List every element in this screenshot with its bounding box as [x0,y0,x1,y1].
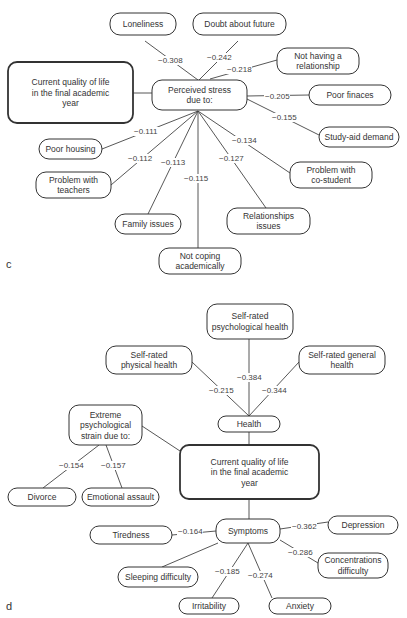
node-irr: Irritability [179,598,239,614]
panel-c: −0.308−0.242−0.218−0.205−0.155−0.111−0.1… [6,13,399,274]
edge-weight: −0.308 [158,56,183,65]
node-label: year [241,478,258,488]
path-diagram: −0.308−0.242−0.218−0.205−0.155−0.111−0.1… [0,0,407,618]
node-stress: Perceived stressdue to: [152,80,247,110]
node-label: Not coping [180,251,221,261]
node-label: Health [237,419,262,429]
edge-weight: −0.344 [262,386,287,395]
edge-weight: −0.127 [219,154,244,163]
node-label: Problem with [49,175,98,185]
node-label: Anxiety [286,601,315,611]
node-label: Self-rated [131,350,168,360]
node-costu: Problem withco-student [290,162,372,188]
node-label: academically [175,261,225,271]
edge-weight: −0.242 [207,53,232,62]
node-label: Poor finaces [326,90,373,100]
node-label: Not having a [294,51,342,61]
node-label: difficulty [338,566,369,576]
node-gen: Self-rated generalhealth [299,346,385,374]
node-fam: Family issues [115,214,181,234]
node-label: in the final academic [32,88,110,98]
panel-letter: d [6,600,12,612]
node-qol: Current quality of lifein the final acad… [8,62,133,123]
node-label: Current quality of life [211,457,289,467]
node-label: Family issues [122,219,173,229]
node-label: Symptoms [228,526,268,536]
node-doubt: Doubt about future [193,13,286,35]
edge-weight: −0.384 [237,373,262,382]
node-label: issues [256,221,280,231]
edge-weight: −0.218 [227,65,252,74]
node-label: in the final academic [211,467,289,477]
node-label: Relationships [243,211,294,221]
node-label: Extreme [90,410,122,420]
node-label: Loneliness [123,19,164,29]
node-label: teachers [57,185,90,195]
node-psy: Self-ratedpsychological health [207,304,293,339]
node-conc: Concentrationsdifficulty [318,553,388,578]
node-label: strain due to: [81,431,130,441]
node-sleep: Sleeping difficulty [118,567,198,587]
node-label: Self-rated general [308,350,376,360]
node-label: Poor housing [45,144,95,154]
node-phys: Self-ratedphysical health [106,346,192,374]
node-symp: Symptoms [216,519,280,543]
edge-weight: −0.154 [59,461,84,470]
node-label: Irritability [192,601,227,611]
edge-weight: −0.362 [292,522,317,531]
node-emo: Emotional assault [82,488,159,506]
node-label: psychological health [212,322,289,332]
panel-d: −0.384−0.215−0.344−0.154−0.157−0.164−0.3… [6,304,398,614]
panel-letter: c [6,258,12,270]
edge-line [142,426,180,451]
node-lone: Loneliness [110,13,176,35]
node-label: psychological [80,420,131,430]
node-label: Divorce [28,492,57,502]
edge-weight: −0.157 [101,461,126,470]
node-house: Poor housing [39,139,102,159]
node-tired: Tiredness [90,526,172,544]
node-label: relationship [296,61,340,71]
node-label: Current quality of life [32,77,110,87]
node-label: year [62,98,79,108]
edge-weight: −0.215 [209,386,234,395]
edge-weight: −0.164 [178,527,203,536]
edge-weight: −0.185 [215,567,240,576]
node-label: Self-rated [232,311,269,321]
node-label: Doubt about future [204,19,275,29]
node-label: Concentrations [324,555,381,565]
node-rel: Relationshipsissues [227,208,310,234]
node-label: Depression [342,520,385,530]
node-teach: Problem withteachers [36,172,111,198]
node-cope: Not copingacademically [159,248,241,274]
node-label: health [330,360,353,370]
node-label: Study-aid demand [325,132,394,142]
edge-weight: −0.134 [232,136,257,145]
node-label: Tiredness [112,530,149,540]
node-qol2: Current quality of lifein the final acad… [180,445,319,499]
node-label: physical health [121,360,178,370]
node-anx: Anxiety [269,598,331,614]
node-label: Perceived stress [168,85,231,95]
edge-weight: −0.286 [288,548,313,557]
node-aid: Study-aid demand [319,127,399,147]
edge-weight: −0.111 [134,127,158,136]
edge-weight: −0.155 [272,113,297,122]
edge-weight: −0.205 [265,92,290,101]
edge-weight: −0.274 [248,571,273,580]
node-label: Emotional assault [87,492,155,502]
edge-weight: −0.115 [184,174,209,183]
node-dep: Depression [328,516,398,534]
node-div: Divorce [8,488,76,506]
node-label: Problem with [306,165,355,175]
node-health: Health [218,416,280,432]
node-norel: Not having arelationship [277,48,359,74]
edge-weight: −0.113 [161,158,186,167]
node-label: co-student [311,175,351,185]
node-strain: Extremepsychologicalstrain due to: [69,405,142,445]
node-label: Sleeping difficulty [125,572,192,582]
edge-weight: −0.112 [128,154,153,163]
node-label: due to: [187,95,213,105]
node-fin: Poor finaces [309,85,391,105]
edge-line [162,543,218,567]
